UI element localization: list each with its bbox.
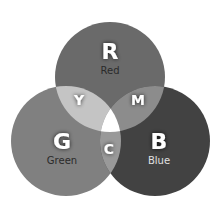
green-letter: G xyxy=(53,129,71,154)
blue-letter: B xyxy=(151,129,168,154)
cyan-letter: C xyxy=(104,141,114,157)
magenta-letter: M xyxy=(131,92,145,108)
red-label: Red xyxy=(101,65,120,76)
blue-label: Blue xyxy=(148,155,170,166)
green-label: Green xyxy=(47,155,77,166)
yellow-letter: Y xyxy=(73,92,85,108)
red-letter: R xyxy=(102,39,119,64)
venn-diagram: R Red G Green B Blue Y M C xyxy=(0,0,220,208)
